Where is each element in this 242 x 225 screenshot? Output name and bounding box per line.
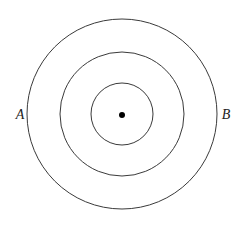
center-dot — [119, 112, 125, 118]
label-b: B — [222, 107, 231, 122]
concentric-circles-diagram: A B — [0, 0, 242, 225]
label-a: A — [15, 107, 25, 122]
